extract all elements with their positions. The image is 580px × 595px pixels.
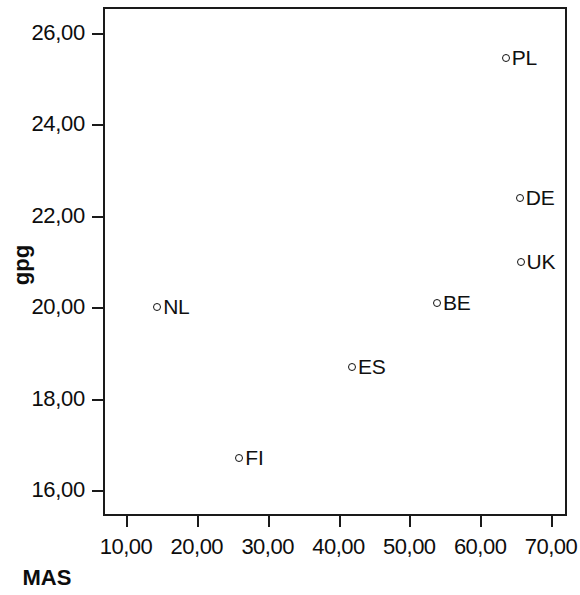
y-axis-tick-mark <box>92 490 103 492</box>
data-point-marker[interactable] <box>348 363 356 371</box>
x-axis-tick-mark <box>268 516 270 527</box>
x-axis-tick-label: 20,00 <box>171 534 224 560</box>
y-axis-tick-mark <box>92 216 103 218</box>
y-axis-tick-mark <box>92 307 103 309</box>
x-axis-tick-mark <box>551 516 553 527</box>
y-axis-tick-label: 16,00 <box>0 477 85 503</box>
x-axis-tick-mark <box>197 516 199 527</box>
y-axis-tick-mark <box>92 124 103 126</box>
data-point-marker[interactable] <box>502 54 510 62</box>
data-point-label: PL <box>512 46 537 70</box>
x-axis-tick-label: 30,00 <box>241 534 294 560</box>
x-axis-tick-mark <box>126 516 128 527</box>
data-point-label: UK <box>527 250 556 274</box>
y-axis-tick-label: 22,00 <box>0 203 85 229</box>
y-axis-title: gpg <box>9 245 35 285</box>
x-axis-tick-mark <box>409 516 411 527</box>
data-point-marker[interactable] <box>153 303 161 311</box>
x-axis-tick-label: 10,00 <box>100 534 153 560</box>
data-point-label: DE <box>526 186 555 210</box>
y-axis-tick-label: 20,00 <box>0 294 85 320</box>
x-axis-title: MAS <box>0 565 580 591</box>
x-axis-tick-label: 70,00 <box>525 534 578 560</box>
y-axis-tick-label: 18,00 <box>0 386 85 412</box>
x-axis-title-text: MAS <box>23 565 72 590</box>
x-axis-tick-label: 40,00 <box>312 534 365 560</box>
data-point-label: ES <box>358 355 386 379</box>
y-axis-tick-label: 26,00 <box>0 20 85 46</box>
x-axis-tick-mark <box>339 516 341 527</box>
data-point-marker[interactable] <box>517 258 525 266</box>
scatter-plot-figure: 16,0018,0020,0022,0024,0026,00 10,0020,0… <box>0 0 580 595</box>
data-point-label: NL <box>163 295 189 319</box>
data-point-label: FI <box>245 446 263 470</box>
x-axis-tick-label: 60,00 <box>454 534 507 560</box>
data-point-marker[interactable] <box>516 194 524 202</box>
x-axis-tick-label: 50,00 <box>383 534 436 560</box>
plot-area: PLDEUKNLBEESFI <box>103 7 567 516</box>
y-axis-tick-mark <box>92 399 103 401</box>
data-point-label: BE <box>443 291 471 315</box>
data-point-marker[interactable] <box>235 454 243 462</box>
y-axis-tick-mark <box>92 33 103 35</box>
y-axis-tick-label: 24,00 <box>0 111 85 137</box>
x-axis-tick-mark <box>480 516 482 527</box>
data-point-marker[interactable] <box>433 299 441 307</box>
